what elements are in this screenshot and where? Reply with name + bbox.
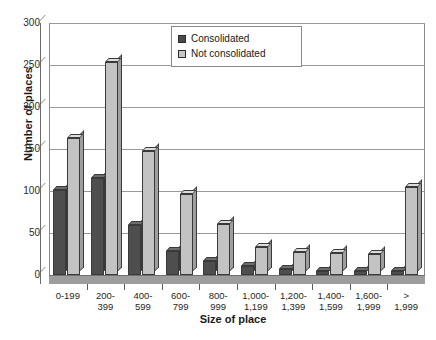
y-axis-title: Number of places xyxy=(22,34,34,194)
legend-label: Consolidated xyxy=(191,33,249,44)
dark-square-swatch-icon xyxy=(178,35,186,43)
bar-front-face xyxy=(203,261,216,275)
bar-side-face xyxy=(118,55,122,271)
bar xyxy=(142,151,155,275)
bar-front-face xyxy=(67,138,80,275)
bar-side-face xyxy=(80,130,84,271)
bar xyxy=(316,271,329,275)
y-axis-tick-label: 50 xyxy=(10,227,40,238)
bar-side-face xyxy=(155,143,159,271)
y-axis-tick-label: 300 xyxy=(10,17,40,28)
bar xyxy=(180,194,193,275)
y-axis-tick-label: 150 xyxy=(10,143,40,154)
bar xyxy=(128,225,141,275)
bar-front-face xyxy=(166,251,179,275)
y-axis-tick-label: 250 xyxy=(10,59,40,70)
bar-front-face xyxy=(405,187,418,275)
bar-front-face xyxy=(128,225,141,275)
bar-group xyxy=(387,23,425,275)
bar-side-face xyxy=(193,187,197,271)
bar xyxy=(293,252,306,275)
bar xyxy=(203,261,216,275)
y-axis-tick-label: 100 xyxy=(10,185,40,196)
legend-item-consolidated: Consolidated xyxy=(178,31,295,46)
x-axis-title: Size of place xyxy=(40,313,426,325)
bar-front-face xyxy=(391,271,404,275)
bar-front-face xyxy=(217,224,230,275)
x-axis-category-labels: 0-199200- 399400- 599600- 799800- 9991,0… xyxy=(49,290,425,314)
bar-front-face xyxy=(53,190,66,275)
y-axis-tick-label: 0 xyxy=(10,269,40,280)
bar-front-face xyxy=(316,271,329,275)
x-axis-category-label: > 1,999 xyxy=(383,290,429,312)
bar-front-face xyxy=(180,194,193,275)
bar xyxy=(105,62,118,275)
bar-front-face xyxy=(255,247,268,275)
bar-group xyxy=(124,23,162,275)
bar-group xyxy=(312,23,350,275)
bar-front-face xyxy=(368,254,381,275)
bar xyxy=(405,187,418,275)
y-axis-tick-label: 200 xyxy=(10,101,40,112)
bar-front-face xyxy=(105,62,118,275)
bar xyxy=(354,271,367,275)
bar xyxy=(241,266,254,275)
bar-front-face xyxy=(354,271,367,275)
bar xyxy=(330,253,343,275)
bar xyxy=(217,224,230,275)
bar-group xyxy=(49,23,87,275)
bar-group xyxy=(87,23,125,275)
bar xyxy=(166,251,179,275)
bar xyxy=(91,178,104,275)
bar-front-face xyxy=(91,178,104,275)
bar-front-face xyxy=(293,252,306,275)
bar-chart: Number of places 050100150200250300 0-19… xyxy=(0,0,436,340)
bar xyxy=(279,269,292,275)
bar-front-face xyxy=(142,151,155,275)
legend-item-not-consolidated: Not consolidated xyxy=(178,46,295,61)
bar xyxy=(53,190,66,275)
legend: Consolidated Not consolidated xyxy=(171,26,302,67)
bar-side-face xyxy=(418,179,422,271)
bar-side-face xyxy=(230,216,234,271)
bar-group xyxy=(350,23,388,275)
bar xyxy=(67,138,80,275)
legend-label: Not consolidated xyxy=(191,48,266,59)
bar-front-face xyxy=(241,266,254,275)
bar xyxy=(255,247,268,275)
light-square-swatch-icon xyxy=(178,50,186,58)
bar-front-face xyxy=(279,269,292,275)
bar-front-face xyxy=(330,253,343,275)
y-axis-line xyxy=(40,23,41,284)
bar xyxy=(368,254,381,275)
bar xyxy=(391,271,404,275)
